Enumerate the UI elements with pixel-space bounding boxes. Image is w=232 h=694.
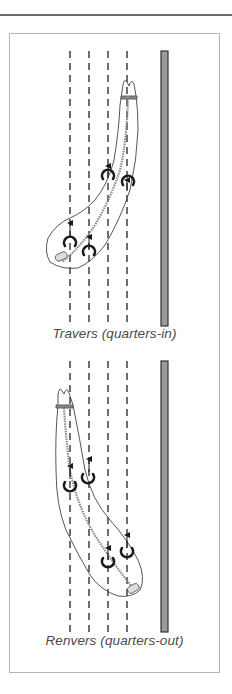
horse-tail bbox=[126, 582, 140, 594]
hoof-prints bbox=[64, 459, 133, 567]
track-lines bbox=[70, 51, 127, 326]
horse-outline bbox=[46, 81, 138, 269]
travers-caption: Travers (quarters-in) bbox=[9, 326, 220, 341]
lateral-movements-diagram bbox=[0, 0, 232, 694]
horse-tail bbox=[54, 251, 68, 262]
horse-outline bbox=[56, 389, 143, 596]
renvers-diagram bbox=[56, 361, 168, 632]
arena-wall bbox=[161, 361, 168, 632]
track-lines bbox=[70, 361, 127, 632]
hoof-prints bbox=[64, 166, 134, 255]
travers-diagram bbox=[46, 51, 168, 326]
renvers-caption: Renvers (quarters-out) bbox=[9, 633, 220, 648]
horse-spine bbox=[64, 408, 133, 588]
arena-wall bbox=[161, 51, 168, 326]
